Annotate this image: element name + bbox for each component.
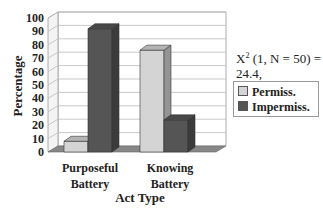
y-tick-label: 80 — [20, 39, 44, 51]
y-tick-label: 50 — [20, 79, 44, 91]
x-axis-label: Act Type — [100, 190, 180, 206]
y-tick-label: 20 — [20, 119, 44, 131]
x-category-knowing: Knowing Battery — [130, 160, 210, 192]
y-tick-label: 60 — [20, 66, 44, 78]
y-tick-label: 10 — [20, 133, 44, 145]
y-tick-label: 30 — [20, 106, 44, 118]
y-tick-label: 0 — [20, 146, 44, 158]
legend-swatch-icon — [238, 101, 248, 111]
legend-item-permiss: Permiss. — [238, 86, 296, 99]
legend-swatch-icon — [238, 86, 248, 96]
y-tick-label: 90 — [20, 25, 44, 37]
bar-impermiss — [164, 115, 195, 152]
x-category-purposeful: Purposeful Battery — [50, 160, 130, 192]
y-tick-label: 40 — [20, 92, 44, 104]
bar-chart: Percentage 0102030405060708090100 Purpos… — [0, 0, 323, 210]
legend: Permiss. Impermiss. — [233, 81, 319, 117]
legend-item-impermiss: Impermiss. — [238, 101, 310, 114]
bar-impermiss — [88, 24, 119, 152]
y-tick-label: 100 — [20, 12, 44, 24]
y-tick-label: 70 — [20, 52, 44, 64]
